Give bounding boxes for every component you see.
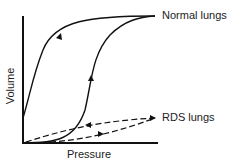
arrow-deflation-icon [56,33,62,40]
legend-normal-lungs: Normal lungs [162,9,227,21]
normal-lungs-arrows [56,33,94,81]
arrow-rds-inflation-icon [98,131,104,137]
legend-rds-lungs: RDS lungs [162,111,215,123]
y-axis-label: Volume [4,68,16,105]
arrow-inflation-icon [88,75,94,81]
arrow-rds-end-icon [150,115,156,121]
x-axis-label: Pressure [67,148,111,160]
rds-lungs-curve [23,118,155,143]
arrow-rds-deflation-icon [85,122,91,128]
pv-diagram [0,0,228,165]
